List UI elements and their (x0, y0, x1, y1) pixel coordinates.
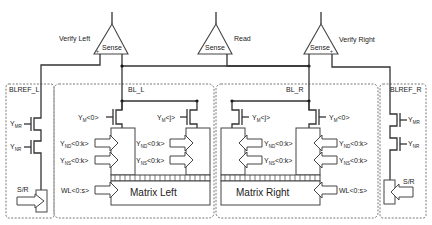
decoder-left-j (186, 128, 210, 175)
label-ynr-right: YNR (408, 140, 420, 149)
transistor-ymj-right (232, 101, 249, 128)
label-ymr-right: YMR (408, 116, 420, 125)
label-ymj-right: YM<j> (252, 114, 270, 123)
matrix-left-label: Matrix Left (130, 187, 177, 198)
decoder-right-0 (296, 128, 320, 175)
label-sr-right: S/R (403, 178, 415, 185)
caption-read: Read (234, 35, 251, 42)
label-ym0-right: YM<0> (329, 114, 350, 123)
sense-amp-verify-left: Sense + (94, 12, 128, 54)
label-sr-left: S/R (17, 186, 29, 193)
label-bl-l: BL_L (128, 86, 144, 94)
caption-verify-left: Verify Left (59, 35, 90, 43)
caption-verify-right: Verify Right (339, 36, 375, 44)
sense-amp-verify-right: Sense + (304, 12, 338, 54)
transistor-ym0-left (106, 101, 122, 128)
transistor-ymj-left (180, 101, 197, 128)
label-wl-left: WL<0:s> (61, 187, 89, 194)
sense-amp-read: Sense (198, 12, 232, 54)
label-ymj-left: YM<j> (157, 114, 175, 123)
label-ynd-right-j: YND<0:k> (264, 140, 293, 149)
label-ynd-left-0: YND<0:k> (60, 140, 89, 149)
label-yns-right-j: YNS<0:k> (264, 157, 292, 166)
decoder-left-0 (111, 128, 135, 175)
label-bl-r: BL_R (286, 86, 304, 94)
label-yns-left-j: YNS<0:k> (136, 157, 164, 166)
svg-text:+: + (330, 48, 333, 54)
label-yns-right-0: YNS<0:k> (339, 157, 367, 166)
matrix-right-label: Matrix Right (236, 187, 290, 198)
label-ynd-left-j: YND<0:k> (136, 140, 165, 149)
memory-sense-diagram: Sense + Verify Left Sense Read Sense + V… (0, 0, 432, 225)
label-ynd-right-0: YND<0:k> (339, 140, 368, 149)
label-yns-left-0: YNS<0:k> (60, 157, 88, 166)
label-wl-right: WL<0:s> (339, 187, 367, 194)
label-ymr-left: YMR (10, 120, 22, 129)
transistor-ymr-right (390, 110, 407, 137)
transistor-ynr-left (24, 137, 41, 190)
label-ynr-left: YNR (10, 143, 22, 152)
transistor-ym0-right (309, 101, 326, 128)
transistor-ymr-left (24, 110, 41, 137)
label-blref-r: BLREF_R (390, 86, 422, 94)
label-ym0-left: YM<0> (78, 114, 99, 123)
svg-text:+: + (96, 48, 99, 54)
label-blref-l: BLREF_L (9, 86, 39, 94)
svg-text:Sense: Sense (102, 44, 122, 51)
decoder-right-j (221, 128, 245, 175)
transistor-ynr-right (390, 137, 407, 180)
svg-text:Sense: Sense (205, 44, 225, 51)
svg-text:Sense: Sense (310, 44, 330, 51)
